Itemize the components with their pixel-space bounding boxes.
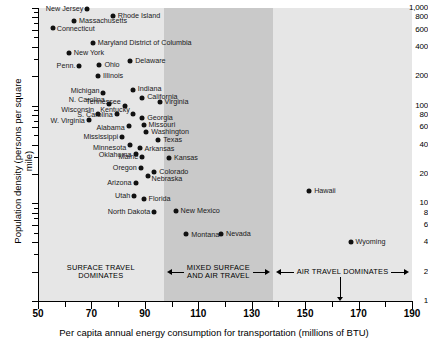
- data-point-label: New Jersey: [46, 5, 84, 13]
- x-minor-tick: [278, 302, 279, 307]
- data-point-label: New Mexico: [181, 207, 220, 215]
- data-point-label: Hawaii: [314, 187, 336, 195]
- data-point: [140, 154, 145, 159]
- data-point: [307, 188, 312, 193]
- y-tick-label: 60: [398, 123, 428, 131]
- data-point-label: Ohio: [104, 61, 119, 69]
- x-tick-label: 50: [32, 309, 43, 319]
- data-point-label: Virginia: [165, 99, 189, 107]
- y-minor-tick: [34, 121, 38, 122]
- data-point: [140, 115, 145, 120]
- data-point: [141, 122, 146, 127]
- data-point-label: Arkansas: [145, 145, 175, 153]
- y-tick: [32, 47, 38, 48]
- data-point: [184, 231, 189, 236]
- y-tick-label: 400: [398, 43, 428, 51]
- scatter-chart: 1246810204060801002004006008001,000 5070…: [0, 0, 428, 345]
- y-axis-title: Population density (persons per square m…: [12, 76, 34, 246]
- data-point: [218, 232, 223, 237]
- data-point: [145, 174, 150, 179]
- y-minor-tick: [34, 110, 38, 111]
- y-tick-label: 4: [398, 238, 428, 246]
- x-minor-tick: [225, 302, 226, 307]
- data-point-label: North Dakota: [108, 208, 150, 216]
- y-tick-label: 40: [398, 141, 428, 149]
- y-tick-label: 20: [398, 170, 428, 178]
- x-minor-tick: [118, 302, 119, 307]
- y-minor-tick: [34, 37, 38, 38]
- data-point-label: Utah: [115, 192, 130, 200]
- y-minor-tick: [34, 208, 38, 209]
- y-minor-tick: [34, 157, 38, 158]
- data-point: [137, 145, 142, 150]
- y-minor-tick: [34, 59, 38, 60]
- data-point-label: Connecticut: [57, 25, 95, 33]
- y-minor-tick: [34, 23, 38, 24]
- zone-label: MIXED SURFACEAND AIR TRAVEL: [184, 264, 253, 281]
- data-point: [120, 134, 125, 139]
- data-point-label: New York: [74, 49, 104, 57]
- data-point-label: Maryland District of Columbia: [98, 39, 192, 47]
- x-minor-tick: [172, 302, 173, 307]
- data-point: [138, 166, 143, 171]
- data-point: [173, 209, 178, 214]
- x-tick-label: 110: [190, 309, 206, 319]
- y-tick-label: 8: [398, 209, 428, 217]
- data-point: [132, 193, 137, 198]
- zone-label: SURFACE TRAVEL DOMINATES: [41, 264, 161, 281]
- data-point: [144, 129, 149, 134]
- data-point: [97, 63, 102, 68]
- data-point: [133, 181, 138, 186]
- y-tick-label: 200: [398, 72, 428, 80]
- y-tick-label: 1: [398, 297, 428, 305]
- zone-band-air: [273, 8, 412, 301]
- data-point: [166, 156, 171, 161]
- data-point: [85, 6, 90, 11]
- y-tick-label: 800: [398, 13, 428, 21]
- data-point: [114, 112, 119, 117]
- y-minor-tick: [34, 254, 38, 255]
- x-minor-tick: [385, 302, 386, 307]
- zone-annotation-mixed: MIXED SURFACEAND AIR TRAVEL: [167, 262, 271, 282]
- x-tick-label: 170: [350, 309, 367, 319]
- y-minor-tick: [34, 233, 38, 234]
- data-point-label: Kansas: [174, 154, 198, 162]
- y-minor-tick: [34, 135, 38, 136]
- data-point: [130, 87, 135, 92]
- y-tick-label: 100: [398, 102, 428, 110]
- y-minor-tick: [34, 218, 38, 219]
- data-point-label: Oregon: [113, 164, 137, 172]
- zone-annotation-air: AIR TRAVEL DOMINATES: [276, 262, 409, 282]
- y-axis-line: [38, 8, 39, 302]
- y-tick-label: 600: [398, 26, 428, 34]
- data-point: [96, 74, 101, 79]
- data-point-label: Nebraska: [152, 175, 183, 183]
- data-point: [130, 111, 135, 116]
- x-minor-tick: [65, 302, 66, 307]
- data-point: [86, 118, 91, 123]
- y-minor-tick: [34, 12, 38, 13]
- data-point-label: W. Virginia: [51, 117, 85, 125]
- data-point: [72, 19, 77, 24]
- data-point: [128, 59, 133, 64]
- data-point-label: Mississippi: [83, 133, 118, 141]
- data-point-label: Maine: [119, 153, 139, 161]
- y-tick: [32, 30, 38, 31]
- data-point: [348, 240, 353, 245]
- data-point-label: Texas: [163, 136, 182, 144]
- data-point: [141, 197, 146, 202]
- zone-arrow-head-left: [167, 269, 172, 275]
- x-tick-label: 150: [297, 309, 314, 319]
- data-point-label: Florida: [149, 195, 171, 203]
- x-minor-tick: [332, 302, 333, 307]
- data-point: [126, 123, 131, 128]
- zone-arrow-head-left: [276, 269, 281, 275]
- data-point: [152, 209, 157, 214]
- y-tick-label: 6: [398, 221, 428, 229]
- y-tick: [32, 8, 38, 9]
- zone-annotation-surface: SURFACE TRAVEL DOMINATES: [41, 262, 161, 282]
- zone-label: AIR TRAVEL DOMINATES: [294, 268, 392, 276]
- data-point-label: Delaware: [135, 57, 165, 65]
- x-tick-label: 70: [86, 309, 97, 319]
- x-tick-label: 190: [404, 309, 421, 319]
